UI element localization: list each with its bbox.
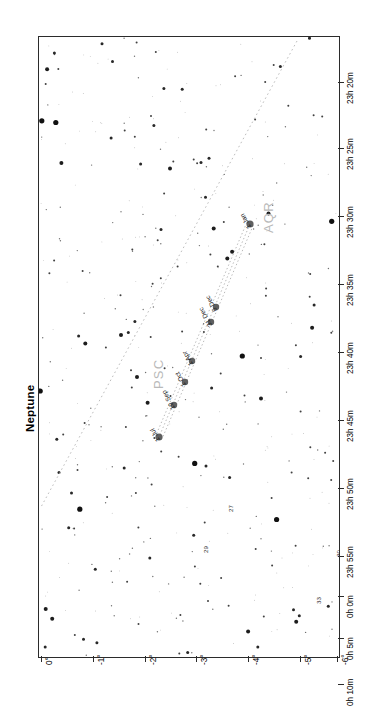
star	[263, 616, 265, 618]
star	[130, 618, 131, 619]
star	[314, 163, 315, 164]
star	[314, 459, 315, 460]
star	[67, 526, 70, 529]
star	[160, 228, 163, 231]
star	[147, 477, 148, 478]
star	[332, 331, 333, 332]
ra-tick-label: 23h 55m	[346, 546, 355, 578]
star	[178, 653, 180, 655]
star	[257, 423, 258, 424]
star	[256, 516, 257, 517]
star	[168, 167, 172, 171]
star	[142, 214, 143, 215]
star	[330, 332, 332, 334]
star	[271, 631, 272, 632]
dec-tick	[337, 656, 338, 662]
star	[211, 353, 212, 354]
star	[198, 417, 199, 418]
star	[139, 461, 140, 462]
star	[192, 461, 197, 466]
star	[42, 337, 43, 338]
star	[178, 137, 179, 138]
star	[144, 236, 145, 237]
star	[134, 56, 135, 57]
star	[212, 227, 216, 231]
star	[150, 336, 152, 338]
star	[324, 452, 326, 454]
star	[313, 554, 314, 555]
star	[134, 136, 136, 138]
star	[160, 149, 161, 150]
star	[264, 400, 265, 401]
star	[110, 137, 113, 140]
star	[95, 131, 96, 132]
star	[157, 239, 159, 241]
ra-tick	[338, 216, 344, 217]
star	[220, 577, 222, 579]
star	[152, 576, 153, 577]
star	[160, 451, 162, 453]
star	[79, 131, 80, 132]
star	[111, 571, 112, 572]
star	[77, 507, 82, 512]
star	[57, 68, 59, 70]
star	[267, 136, 268, 137]
ra-tick	[338, 352, 344, 353]
star	[335, 213, 336, 214]
ecliptic-line	[41, 41, 297, 507]
star	[154, 506, 155, 507]
star	[82, 638, 85, 641]
star	[112, 582, 113, 583]
star	[279, 613, 280, 614]
star	[48, 272, 50, 274]
star	[155, 51, 157, 53]
star	[41, 139, 42, 140]
star	[282, 558, 283, 559]
star	[168, 583, 169, 584]
star	[139, 617, 140, 618]
star	[322, 547, 323, 548]
dec-tick	[196, 656, 197, 662]
star	[285, 126, 286, 127]
star	[321, 115, 323, 117]
star	[165, 142, 166, 143]
star	[254, 205, 255, 206]
star	[265, 122, 266, 123]
star	[48, 45, 49, 46]
star	[41, 136, 42, 137]
star	[120, 211, 121, 212]
star	[197, 233, 198, 234]
star	[213, 510, 214, 511]
star	[267, 446, 268, 447]
star	[83, 93, 84, 94]
star	[240, 75, 241, 76]
star	[291, 323, 292, 324]
star	[265, 288, 267, 290]
star	[331, 321, 332, 322]
star	[152, 96, 153, 97]
star	[177, 266, 179, 268]
star	[131, 495, 132, 496]
star	[172, 161, 174, 163]
star	[137, 168, 138, 169]
star	[194, 189, 195, 190]
star	[179, 411, 180, 412]
star	[317, 417, 318, 418]
star	[255, 548, 257, 550]
ra-tick-label: 23h 45m	[346, 410, 355, 442]
ra-tick	[338, 684, 344, 685]
star	[192, 534, 195, 537]
star	[138, 347, 139, 348]
star	[77, 250, 78, 251]
star	[223, 477, 224, 478]
star	[199, 245, 200, 246]
star	[95, 641, 98, 644]
star	[182, 620, 183, 621]
star	[309, 273, 311, 275]
star	[277, 629, 278, 630]
star	[307, 477, 309, 479]
star	[193, 401, 194, 402]
star	[191, 652, 192, 653]
star	[74, 634, 76, 636]
star	[177, 52, 178, 53]
